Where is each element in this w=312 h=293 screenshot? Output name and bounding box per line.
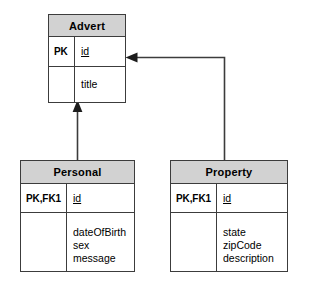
entity-advert-key-label: PK <box>49 37 75 66</box>
entity-personal-attr-row: dateOfBirth sex message <box>21 213 134 271</box>
entity-property-key-label: PK,FK1 <box>171 184 217 212</box>
entity-advert[interactable]: Advert PK id title <box>48 14 126 103</box>
entity-property-attr-row: state zipCode description <box>171 213 287 271</box>
entity-personal-key-blank <box>21 213 67 271</box>
entity-property-attributes: state zipCode description <box>217 213 287 271</box>
relationship-line-property <box>134 58 225 161</box>
entity-property-pk-attribute: id <box>223 192 287 205</box>
entity-property-attribute: description <box>223 252 287 265</box>
entity-advert-attribute: title <box>81 78 125 91</box>
entity-personal-pk-cell: id <box>67 184 134 212</box>
entity-personal-attribute: sex <box>73 239 134 252</box>
entity-property-key-blank <box>171 213 217 271</box>
entity-property-attribute: state <box>223 226 287 239</box>
entity-property-key-row: PK,FK1 id <box>171 184 287 213</box>
entity-advert-pk-attribute: id <box>81 45 125 58</box>
entity-advert-title: Advert <box>49 15 125 37</box>
entity-advert-key-blank <box>49 67 75 102</box>
relationship-property-to-advert <box>126 53 225 160</box>
entity-advert-attributes: title <box>75 67 125 102</box>
entity-personal-pk-attribute: id <box>73 192 134 205</box>
entity-personal-attribute: dateOfBirth <box>73 226 134 239</box>
entity-personal-attribute: message <box>73 252 134 265</box>
entity-property-pk-cell: id <box>217 184 287 212</box>
diagram-canvas: Advert PK id title Personal PK,FK1 id da… <box>0 0 312 293</box>
arrowhead-left-property <box>126 53 138 63</box>
entity-advert-key-row: PK id <box>49 37 125 67</box>
entity-personal-key-row: PK,FK1 id <box>21 184 134 213</box>
entity-advert-attr-row: title <box>49 67 125 102</box>
entity-property-title: Property <box>171 161 287 184</box>
entity-property[interactable]: Property PK,FK1 id state zipCode descrip… <box>170 160 288 272</box>
relationship-personal-to-advert <box>73 100 83 160</box>
entity-personal[interactable]: Personal PK,FK1 id dateOfBirth sex messa… <box>20 160 135 272</box>
entity-personal-key-label: PK,FK1 <box>21 184 67 212</box>
entity-personal-attributes: dateOfBirth sex message <box>67 213 134 271</box>
entity-advert-pk-cell: id <box>75 37 125 66</box>
entity-property-attribute: zipCode <box>223 239 287 252</box>
entity-personal-title: Personal <box>21 161 134 184</box>
